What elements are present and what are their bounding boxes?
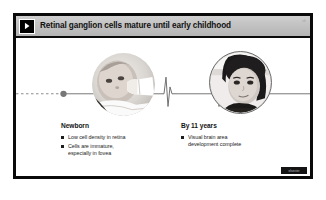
- list-item: Low cell density in retina: [61, 134, 161, 142]
- newborn-bullet-list: Low cell density in retina Cells are imm…: [61, 134, 161, 159]
- bullet-text: Cells are immature,especially in fovea: [68, 143, 114, 157]
- child-photo: [209, 51, 272, 114]
- square-bullet-icon: [61, 145, 64, 148]
- square-bullet-icon: [61, 136, 64, 139]
- list-item: Visual brain areadevelopment complete: [181, 134, 286, 149]
- newborn-photo: [92, 53, 155, 116]
- slide-title: Retinal ganglion cells mature until earl…: [40, 22, 231, 30]
- child-bullet-list: Visual brain areadevelopment complete: [181, 134, 286, 149]
- slide-header: Retinal ganglion cells mature until earl…: [16, 16, 310, 38]
- slide-body: Newborn Low cell density in retina Cells…: [16, 38, 310, 176]
- newborn-text-block: Newborn Low cell density in retina Cells…: [61, 123, 161, 160]
- child-heading: By 11 years: [181, 123, 286, 130]
- slide-container: Retinal ganglion cells mature until earl…: [13, 13, 313, 179]
- play-chevron-icon[interactable]: [19, 19, 35, 34]
- publisher-logo-badge: elsevier: [281, 167, 307, 174]
- square-bullet-icon: [181, 136, 184, 139]
- child-text-block: By 11 years Visual brain areadevelopment…: [181, 123, 286, 150]
- header-corner-code: ch: [302, 19, 306, 23]
- timeline-spike-left: [161, 77, 177, 106]
- publisher-logo-text: elsevier: [288, 169, 299, 173]
- list-item: Cells are immature,especially in fovea: [61, 143, 161, 158]
- newborn-heading: Newborn: [61, 123, 161, 130]
- bullet-text: Visual brain areadevelopment complete: [188, 134, 241, 148]
- timeline-dot-newborn: [60, 91, 66, 97]
- bullet-text: Low cell density in retina: [68, 134, 125, 140]
